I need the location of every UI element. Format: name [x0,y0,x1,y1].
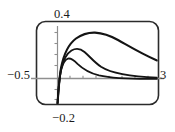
axis-label-right: 3 [160,69,166,82]
plot-figure: 0.4 −0.5 3 −0.2 [0,0,175,132]
axis-label-left: −0.5 [7,69,30,82]
axis-label-bottom: −0.2 [52,112,75,125]
axis-label-top: 0.4 [54,8,70,21]
plot-canvas [0,0,175,132]
